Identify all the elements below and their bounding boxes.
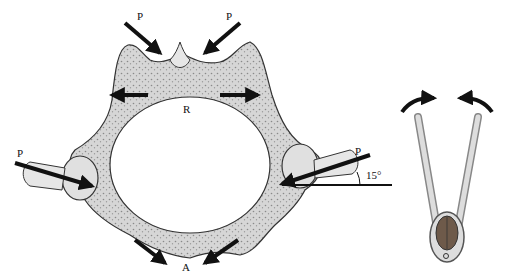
angle-arc <box>357 172 360 185</box>
label-p-right: P <box>355 146 361 157</box>
curved-arrow-right <box>460 98 492 112</box>
arrow-p-top-right <box>205 23 240 53</box>
label-p-left: P <box>17 148 23 159</box>
label-r: R <box>183 104 190 115</box>
curved-arrow-left <box>402 98 434 112</box>
atlas-fracture-diagram: P P R P P 15° A <box>0 0 505 280</box>
diagram-graphics <box>0 0 505 280</box>
label-angle: 15° <box>366 170 381 181</box>
label-p-top-left: P <box>137 11 143 22</box>
label-a: A <box>182 262 190 273</box>
nutcracker-analogy <box>402 98 492 262</box>
atlas-vertebra <box>23 42 358 258</box>
label-p-top-right: P <box>226 11 232 22</box>
